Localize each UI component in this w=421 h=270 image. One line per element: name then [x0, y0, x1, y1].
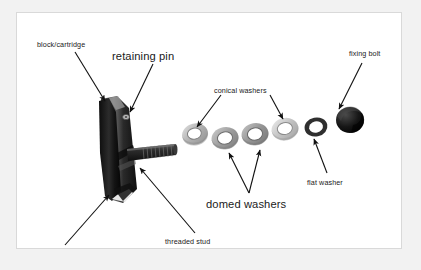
arrow-block-cartridge [75, 52, 105, 101]
arrow-fixing-bolt [339, 63, 362, 109]
flat-washer [303, 115, 329, 138]
diagram-panel: block/cartridge retaining pin conical wa… [16, 12, 402, 249]
label-domed-washers: domed washers [206, 199, 286, 210]
arrow-flat-washer [314, 139, 327, 173]
arrow-domed-left [229, 153, 249, 193]
arrow-cartridge-pad [65, 195, 109, 245]
label-flat-washer: flat washer [307, 179, 343, 186]
washer-4 [270, 115, 301, 143]
washer-3 [240, 121, 270, 148]
arrow-retaining-pin [130, 64, 153, 112]
fixing-bolt [336, 107, 364, 133]
label-fixing-bolt: fixing bolt [349, 50, 380, 57]
arrow-threaded-stud [140, 168, 195, 233]
label-retaining-pin: retaining pin [112, 51, 174, 62]
arrow-domed-right [249, 150, 260, 193]
arrow-conical-right [270, 95, 283, 119]
washer-2 [210, 125, 240, 152]
retaining-pin-center [125, 116, 128, 118]
arrow-conical-left [197, 95, 221, 127]
label-block-cartridge: block/cartridge [37, 41, 85, 48]
threaded-stud [127, 144, 178, 161]
washer-1 [180, 121, 210, 148]
label-conical-washers: conical washers [214, 87, 267, 94]
label-threaded-stud: threaded stud [165, 238, 210, 245]
